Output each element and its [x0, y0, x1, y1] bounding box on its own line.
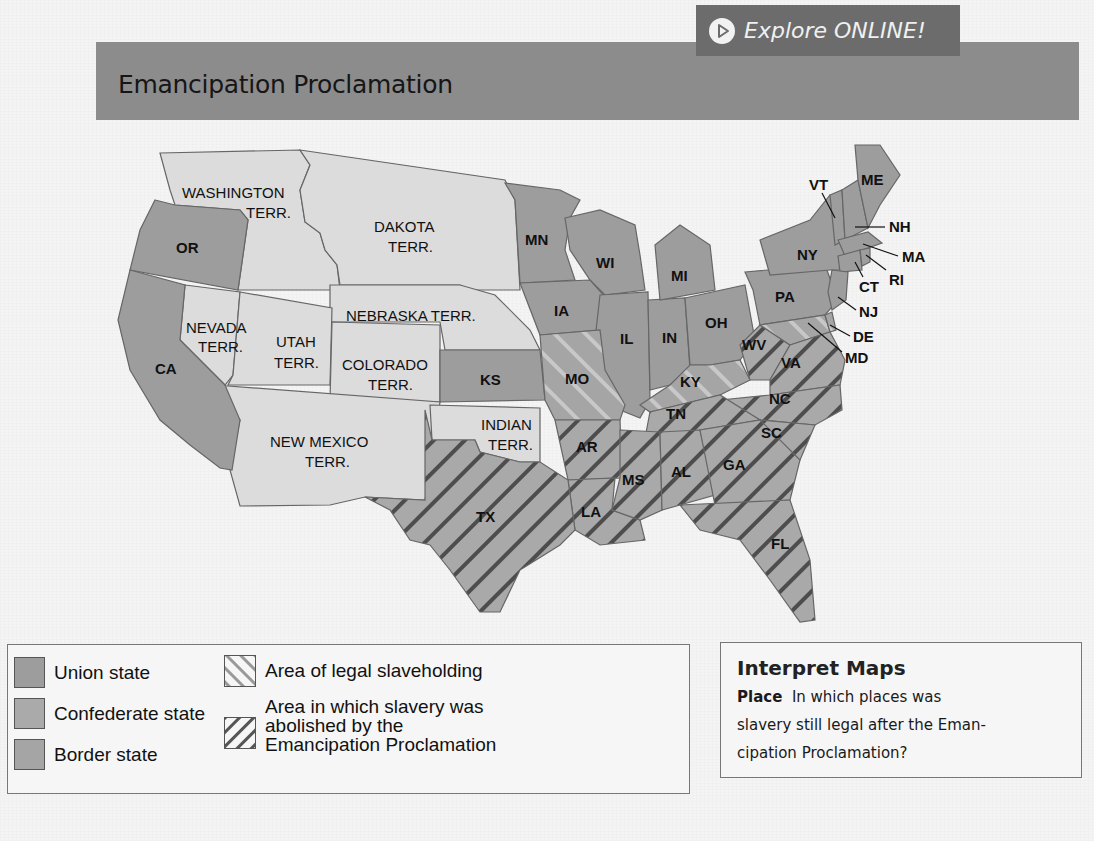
svg-text:TERR.: TERR.: [198, 338, 243, 355]
state-nj: [828, 270, 848, 310]
light-hatch-swatch: [224, 655, 256, 687]
prompt-label: Place: [737, 688, 782, 706]
legend-item-union: Union state: [14, 657, 150, 688]
svg-text:TERR.: TERR.: [388, 238, 433, 255]
svg-text:OH: OH: [705, 314, 728, 331]
legend-item-border: Border state: [14, 739, 158, 770]
legend-label-multiline: Area in which slavery was abolished by t…: [265, 697, 496, 754]
svg-text:GA: GA: [723, 456, 746, 473]
svg-text:DE: DE: [853, 328, 874, 345]
svg-text:NH: NH: [889, 218, 911, 235]
border-swatch: [14, 739, 45, 770]
svg-text:TN: TN: [666, 405, 686, 422]
svg-text:TERR.: TERR.: [368, 376, 413, 393]
state-fl: [680, 500, 815, 622]
svg-text:MD: MD: [845, 349, 868, 366]
svg-text:INDIAN: INDIAN: [481, 416, 532, 433]
svg-text:MS: MS: [622, 471, 645, 488]
svg-text:WV: WV: [742, 336, 766, 353]
confederate-swatch: [14, 698, 45, 729]
legend-label: Border state: [54, 744, 158, 766]
map-legend: Union state Confederate state Border sta…: [7, 644, 690, 794]
svg-text:KY: KY: [680, 373, 701, 390]
svg-text:CT: CT: [859, 278, 879, 295]
svg-text:NEW MEXICO: NEW MEXICO: [270, 433, 368, 450]
svg-text:MI: MI: [671, 267, 688, 284]
interpret-heading: Interpret Maps: [737, 656, 1065, 680]
legend-label: Union state: [54, 662, 150, 684]
svg-text:WASHINGTON: WASHINGTON: [182, 184, 285, 201]
svg-text:VA: VA: [781, 354, 801, 371]
svg-text:UTAH: UTAH: [276, 333, 316, 350]
svg-text:TERR.: TERR.: [246, 204, 291, 221]
svg-text:DAKOTA: DAKOTA: [374, 218, 435, 235]
svg-text:WI: WI: [596, 254, 614, 271]
svg-text:KS: KS: [480, 371, 501, 388]
svg-text:TERR.: TERR.: [274, 354, 319, 371]
svg-text:IN: IN: [662, 329, 677, 346]
svg-text:IA: IA: [554, 302, 569, 319]
svg-text:IL: IL: [620, 330, 633, 347]
legend-item-abolished: Area in which slavery was abolished by t…: [224, 697, 496, 754]
svg-text:TX: TX: [476, 508, 495, 525]
svg-text:NEBRASKA TERR.: NEBRASKA TERR.: [346, 307, 476, 324]
svg-text:SC: SC: [761, 424, 782, 441]
svg-text:NJ: NJ: [859, 303, 878, 320]
interpret-maps-box: Interpret Maps Place In which places was…: [720, 642, 1082, 778]
svg-text:NY: NY: [797, 246, 818, 263]
svg-text:AR: AR: [576, 438, 598, 455]
svg-text:MO: MO: [565, 370, 589, 387]
state-mi: [655, 225, 715, 300]
svg-text:NEVADA: NEVADA: [186, 319, 247, 336]
svg-text:FL: FL: [771, 535, 789, 552]
legend-item-legal-slaveholding: Area of legal slaveholding: [224, 655, 483, 687]
svg-text:RI: RI: [889, 271, 904, 288]
svg-text:ME: ME: [861, 171, 884, 188]
svg-text:AL: AL: [671, 463, 691, 480]
svg-text:MN: MN: [525, 231, 548, 248]
legend-label: Area of legal slaveholding: [265, 660, 483, 682]
svg-text:VT: VT: [809, 176, 828, 193]
svg-text:MA: MA: [902, 248, 925, 265]
svg-text:OR: OR: [176, 239, 199, 256]
svg-text:NC: NC: [769, 390, 791, 407]
svg-text:TERR.: TERR.: [305, 453, 350, 470]
legend-label: Confederate state: [54, 703, 205, 725]
legend-item-confederate: Confederate state: [14, 698, 205, 729]
svg-text:TERR.: TERR.: [488, 436, 533, 453]
svg-text:COLORADO: COLORADO: [342, 356, 428, 373]
svg-text:CA: CA: [155, 360, 177, 377]
dark-hatch-swatch: [224, 717, 256, 749]
svg-text:LA: LA: [581, 503, 601, 520]
svg-text:PA: PA: [775, 288, 795, 305]
interpret-question: Place In which places was slavery still …: [737, 683, 1065, 767]
union-swatch: [14, 657, 45, 688]
